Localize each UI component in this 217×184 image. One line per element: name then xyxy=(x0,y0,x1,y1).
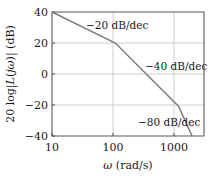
x-axis-title: ω (rad/s) xyxy=(103,159,152,172)
bode-magnitude-figure: 40 20 0 −20 −40 10 100 1000 ω (rad/s) 20… xyxy=(0,0,217,184)
x-axis-title-omega: ω xyxy=(103,159,112,172)
y-axis-title: 20 log|L(jω)| (dB) xyxy=(4,25,18,123)
xtick-label-1000: 1000 xyxy=(160,141,188,154)
annotation-slope-20: −20 dB/dec xyxy=(86,19,148,31)
y-axis-title-omega: ω xyxy=(4,60,17,69)
xtick-label-100: 100 xyxy=(103,141,124,154)
xtick-label-10: 10 xyxy=(45,141,59,154)
ytick-label-neg20: −20 xyxy=(25,99,48,112)
annotation-slope-80: −80 dB/dec xyxy=(138,116,200,128)
ytick-label-40: 40 xyxy=(34,6,48,19)
x-axis-title-group: ω (rad/s) xyxy=(103,159,152,172)
ytick-label-20: 20 xyxy=(34,37,48,50)
y-axis-title-group: 20 log|L(jω)| (dB) xyxy=(4,25,18,123)
y-axis-title-prefix: 20 log xyxy=(4,88,17,123)
ytick-label-0: 0 xyxy=(41,68,48,81)
y-axis-title-L: L xyxy=(4,77,17,85)
y-axis-title-units: (dB) xyxy=(4,25,17,52)
x-axis-title-units: (rad/s) xyxy=(112,159,152,172)
annotation-slope-40: −40 dB/dec xyxy=(145,60,207,72)
bode-plot-canvas: 40 20 0 −20 −40 10 100 1000 ω (rad/s) 20… xyxy=(0,0,217,184)
